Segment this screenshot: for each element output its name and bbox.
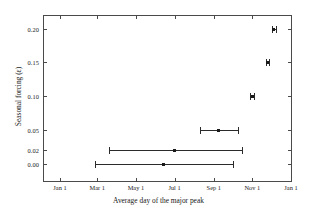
x-tick-label-0: Jan 1 (40, 184, 80, 192)
y-tick-right-0.15 (288, 62, 292, 63)
y-tick-right-0.05 (288, 130, 292, 131)
error-cap-0.05-high (238, 127, 239, 134)
error-cap-0.20-high (276, 26, 277, 33)
y-tick-right-0.10 (288, 96, 292, 97)
y-tick-label-0.15: 0.15 (27, 59, 39, 66)
y-tick-label-0.02: 0.02 (27, 147, 39, 154)
y-tick-right-0.20 (288, 29, 292, 30)
x-tick-top-1 (97, 15, 98, 19)
y-tick-0.00 (43, 164, 47, 165)
x-axis-title: Average day of the major peak (0, 196, 317, 205)
x-tick-top-5 (252, 15, 253, 19)
y-tick-label-0.10: 0.10 (27, 93, 39, 100)
error-cap-0.00-low (95, 161, 96, 168)
y-tick-right-0.00 (288, 164, 292, 165)
x-tick-top-0 (60, 15, 61, 19)
x-tick-6 (291, 178, 292, 182)
data-point-0.05 (217, 129, 220, 132)
x-tick-label-3: Jul 1 (155, 184, 195, 192)
x-tick-label-6: Jan 1 (271, 184, 311, 192)
y-tick-label-0.05: 0.05 (27, 127, 39, 134)
y-axis-title: Seasonal forcing (ε) (14, 17, 23, 177)
error-cap-0.02-high (242, 147, 243, 154)
x-tick-top-6 (291, 15, 292, 19)
x-tick-top-2 (136, 15, 137, 19)
x-tick-5 (252, 178, 253, 182)
error-cap-0.02-low (109, 147, 110, 154)
y-tick-0.02 (43, 150, 47, 151)
y-tick-0.10 (43, 96, 47, 97)
y-tick-0.15 (43, 62, 47, 63)
x-tick-1 (97, 178, 98, 182)
x-tick-label-1: Mar 1 (77, 184, 117, 192)
error-cap-0.15-high (269, 59, 270, 66)
x-tick-label-2: May 1 (116, 184, 156, 192)
y-tick-0.05 (43, 130, 47, 131)
x-tick-2 (136, 178, 137, 182)
data-point-0.20 (272, 28, 275, 31)
data-point-0.10 (251, 95, 254, 98)
error-cap-0.05-low (200, 127, 201, 134)
x-tick-3 (175, 178, 176, 182)
data-point-0.02 (173, 149, 176, 152)
y-tick-0.20 (43, 29, 47, 30)
x-tick-4 (214, 178, 215, 182)
x-tick-top-4 (214, 15, 215, 19)
x-tick-label-4: Sep 1 (194, 184, 234, 192)
y-tick-right-0.02 (288, 150, 292, 151)
error-cap-0.00-high (233, 161, 234, 168)
x-tick-label-5: Nov 1 (232, 184, 272, 192)
figure: 0.000.020.050.100.150.20 Jan 1Mar 1May 1… (0, 0, 317, 217)
y-tick-label-0.00: 0.00 (27, 161, 39, 168)
error-cap-0.10-high (254, 93, 255, 100)
x-tick-0 (60, 178, 61, 182)
data-point-0.15 (266, 61, 269, 64)
x-tick-top-3 (175, 15, 176, 19)
y-tick-label-0.20: 0.20 (27, 26, 39, 33)
data-point-0.00 (162, 163, 165, 166)
